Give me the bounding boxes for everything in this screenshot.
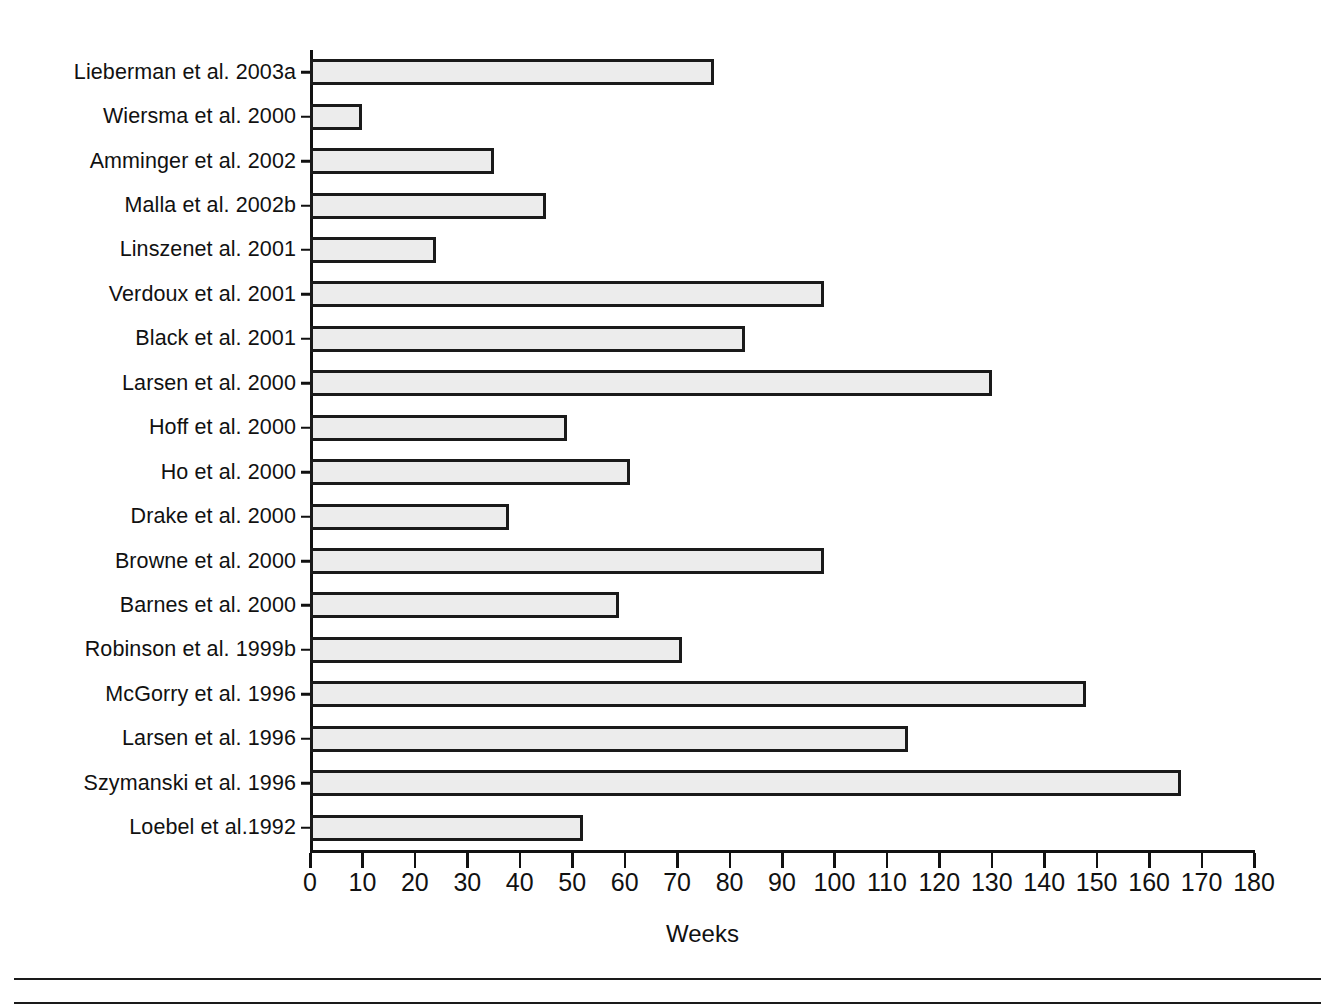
bar-row: Robinson et al. 1999b bbox=[0, 628, 1335, 672]
bar-row: Loebel et al.1992 bbox=[0, 805, 1335, 849]
bar-row: Drake et al. 2000 bbox=[0, 494, 1335, 538]
bar-row: Black et al. 2001 bbox=[0, 317, 1335, 361]
x-axis-tick bbox=[414, 853, 417, 868]
x-axis-title: Weeks bbox=[0, 920, 1335, 948]
x-axis-tick bbox=[1043, 853, 1046, 868]
bar-row: Wiersma et al. 2000 bbox=[0, 94, 1335, 138]
bar-row: Larsen et al. 1996 bbox=[0, 717, 1335, 761]
bar-category-label: Barnes et al. 2000 bbox=[0, 593, 296, 618]
bar-category-label: Lieberman et al. 2003a bbox=[0, 60, 296, 85]
x-axis-tick bbox=[1148, 853, 1151, 868]
bar bbox=[310, 681, 1086, 707]
caption-divider-bottom bbox=[14, 1002, 1321, 1004]
x-axis-tick-label: 30 bbox=[453, 868, 481, 897]
bar-row: Lieberman et al. 2003a bbox=[0, 50, 1335, 94]
x-axis-tick-label: 40 bbox=[506, 868, 534, 897]
x-axis-tick-label: 160 bbox=[1128, 868, 1170, 897]
x-axis-tick-label: 180 bbox=[1233, 868, 1275, 897]
x-axis-tick bbox=[1201, 853, 1204, 868]
bar bbox=[310, 370, 992, 396]
bar-category-label: Drake et al. 2000 bbox=[0, 504, 296, 529]
bar-row: McGorry et al. 1996 bbox=[0, 672, 1335, 716]
x-axis-tick bbox=[1096, 853, 1099, 868]
bar-row: Malla et al. 2002b bbox=[0, 183, 1335, 227]
bar-row: Szymanski et al. 1996 bbox=[0, 761, 1335, 805]
bar-rows: Lieberman et al. 2003aWiersma et al. 200… bbox=[0, 50, 1335, 850]
bar bbox=[310, 815, 583, 841]
bar-category-label: Amminger et al. 2002 bbox=[0, 149, 296, 174]
bar-category-label: Loebel et al.1992 bbox=[0, 815, 296, 840]
bar-row: Ho et al. 2000 bbox=[0, 450, 1335, 494]
x-axis-tick-label: 140 bbox=[1023, 868, 1065, 897]
bar-row: Browne et al. 2000 bbox=[0, 539, 1335, 583]
chart-page: Lieberman et al. 2003aWiersma et al. 200… bbox=[0, 0, 1335, 1007]
x-axis-tick-label: 0 bbox=[303, 868, 317, 897]
x-axis-tick bbox=[729, 853, 732, 868]
bar-row: Hoff et al. 2000 bbox=[0, 406, 1335, 450]
bar-category-label: Verdoux et al. 2001 bbox=[0, 282, 296, 307]
bar-category-label: Linszenet al. 2001 bbox=[0, 237, 296, 262]
bar-category-label: Wiersma et al. 2000 bbox=[0, 104, 296, 129]
x-axis-tick bbox=[781, 853, 784, 868]
bar bbox=[310, 504, 509, 530]
bar bbox=[310, 59, 714, 85]
x-axis-tick-labels: 0102030405060708090100110120130140150160… bbox=[0, 868, 1335, 902]
bar bbox=[310, 459, 630, 485]
x-axis-tick bbox=[571, 853, 574, 868]
bar-category-label: Malla et al. 2002b bbox=[0, 193, 296, 218]
bar-row: Barnes et al. 2000 bbox=[0, 583, 1335, 627]
x-axis-tick-label: 60 bbox=[611, 868, 639, 897]
x-axis-tick bbox=[624, 853, 627, 868]
bar-row: Verdoux et al. 2001 bbox=[0, 272, 1335, 316]
x-axis-tick-label: 110 bbox=[867, 868, 907, 897]
x-axis-tick bbox=[519, 853, 522, 868]
x-axis-tick bbox=[886, 853, 889, 868]
x-axis-tick-label: 50 bbox=[558, 868, 586, 897]
bar-row: Amminger et al. 2002 bbox=[0, 139, 1335, 183]
x-axis-tick bbox=[361, 853, 364, 868]
x-axis-title-text: Weeks bbox=[596, 920, 739, 947]
bar bbox=[310, 326, 745, 352]
x-axis-tick-label: 80 bbox=[716, 868, 744, 897]
bar bbox=[310, 726, 908, 752]
x-axis-tick-label: 70 bbox=[663, 868, 691, 897]
bar-category-label: Ho et al. 2000 bbox=[0, 460, 296, 485]
bar-category-label: Black et al. 2001 bbox=[0, 326, 296, 351]
bar bbox=[310, 548, 824, 574]
x-axis-tick-label: 130 bbox=[971, 868, 1013, 897]
bar-category-label: Browne et al. 2000 bbox=[0, 549, 296, 574]
caption-divider-top bbox=[14, 978, 1321, 980]
bar-chart: Lieberman et al. 2003aWiersma et al. 200… bbox=[0, 0, 1335, 900]
x-axis-tick bbox=[309, 853, 312, 868]
x-axis-tick bbox=[991, 853, 994, 868]
bar-row: Linszenet al. 2001 bbox=[0, 228, 1335, 272]
bar bbox=[310, 237, 436, 263]
bar bbox=[310, 193, 546, 219]
x-axis-tick-label: 120 bbox=[918, 868, 960, 897]
bar bbox=[310, 637, 682, 663]
bar bbox=[310, 148, 494, 174]
x-axis-tick bbox=[938, 853, 941, 868]
bar-category-label: Larsen et al. 1996 bbox=[0, 726, 296, 751]
x-axis-tick bbox=[466, 853, 469, 868]
bar bbox=[310, 104, 362, 130]
x-axis-tick bbox=[1253, 853, 1256, 868]
x-axis-tick-label: 150 bbox=[1076, 868, 1118, 897]
bar bbox=[310, 770, 1181, 796]
x-axis-tick-label: 170 bbox=[1181, 868, 1223, 897]
bar-category-label: Robinson et al. 1999b bbox=[0, 637, 296, 662]
bar bbox=[310, 592, 619, 618]
bar-category-label: Hoff et al. 2000 bbox=[0, 415, 296, 440]
x-axis-tick bbox=[833, 853, 836, 868]
bar bbox=[310, 415, 567, 441]
x-axis-tick-label: 10 bbox=[349, 868, 377, 897]
x-axis-tick-label: 20 bbox=[401, 868, 429, 897]
x-axis-tick-label: 90 bbox=[768, 868, 796, 897]
bar bbox=[310, 281, 824, 307]
bar-category-label: Szymanski et al. 1996 bbox=[0, 771, 296, 796]
bar-category-label: Larsen et al. 2000 bbox=[0, 371, 296, 396]
x-axis-tick-label: 100 bbox=[814, 868, 856, 897]
bar-category-label: McGorry et al. 1996 bbox=[0, 682, 296, 707]
x-axis-tick bbox=[676, 853, 679, 868]
bar-row: Larsen et al. 2000 bbox=[0, 361, 1335, 405]
